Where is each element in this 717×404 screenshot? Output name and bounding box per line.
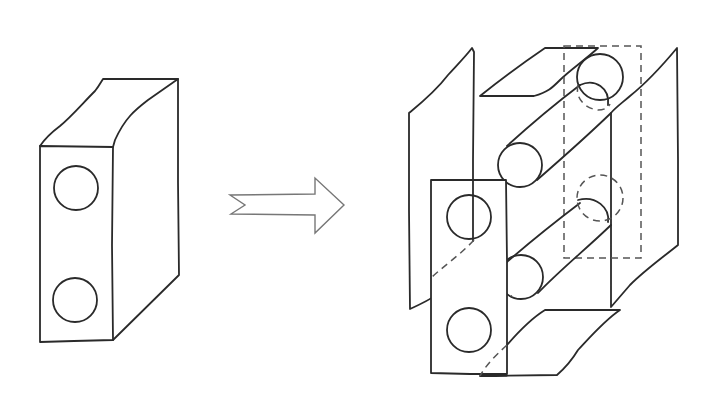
block-right-face	[113, 79, 179, 340]
solid-block	[40, 79, 179, 342]
diagram-canvas: Hand-drawn sketch: a rectangular block w…	[0, 0, 717, 404]
hole-icon	[53, 278, 97, 322]
lower-channel	[499, 175, 623, 299]
block-front-face	[40, 146, 113, 342]
upper-channel	[498, 54, 623, 187]
transform-arrow-icon	[230, 178, 344, 233]
front-panel	[431, 180, 507, 374]
exploded-block	[409, 46, 678, 376]
block-top-face	[40, 79, 178, 147]
hole-icon	[54, 166, 98, 210]
